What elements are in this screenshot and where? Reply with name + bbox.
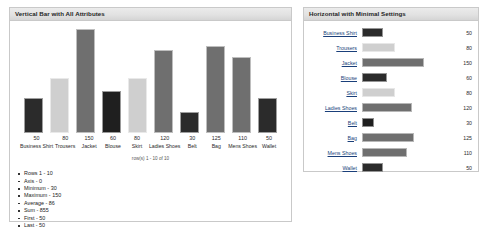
horizontal-bar-track bbox=[362, 25, 452, 40]
statistics-item: First - 50 bbox=[24, 215, 291, 222]
horizontal-bar-row: Bag125 bbox=[304, 130, 478, 145]
row-count-text: row(s) 1 - 10 of 10 bbox=[10, 156, 291, 161]
vertical-bar-slot[interactable] bbox=[124, 21, 150, 133]
horizontal-bar-category-link[interactable]: Belt bbox=[304, 120, 362, 126]
vertical-bar-panel-title: Vertical Bar with All Attributes bbox=[15, 11, 105, 17]
vertical-bar-label-group: 110Mens Shoes bbox=[228, 135, 257, 149]
horizontal-bar-value: 80 bbox=[452, 90, 478, 96]
vertical-bar-axis-labels: 50Business Shirt80Trousers150Jacket60Blo… bbox=[16, 133, 285, 149]
horizontal-bar-value: 110 bbox=[452, 150, 478, 156]
statistics-item: Axis - 0 bbox=[24, 178, 291, 185]
horizontal-bar[interactable] bbox=[362, 163, 383, 172]
horizontal-bar-panel: Horizontal with Minimal Settings Busines… bbox=[303, 7, 479, 172]
vertical-bar-value: 30 bbox=[189, 135, 195, 142]
vertical-bar[interactable] bbox=[102, 91, 121, 133]
vertical-bar-panel: Vertical Bar with All Attributes 50Busin… bbox=[9, 7, 292, 222]
vertical-bar-panel-header: Vertical Bar with All Attributes bbox=[10, 8, 291, 21]
horizontal-bar-row: Skirt80 bbox=[304, 85, 478, 100]
vertical-bar[interactable] bbox=[206, 46, 225, 133]
vertical-bar-category: Jacket bbox=[82, 143, 97, 150]
horizontal-bar-panel-header: Horizontal with Minimal Settings bbox=[304, 8, 478, 21]
horizontal-bar[interactable] bbox=[362, 118, 374, 127]
horizontal-bar[interactable] bbox=[362, 133, 414, 142]
vertical-bar[interactable] bbox=[258, 98, 277, 133]
statistics-item: Last - 50 bbox=[24, 222, 291, 229]
vertical-bar-category: Mens Shoes bbox=[228, 143, 257, 150]
vertical-bar-value: 50 bbox=[266, 135, 272, 142]
vertical-bar-slot[interactable] bbox=[46, 21, 72, 133]
statistics-item: Maximum - 150 bbox=[24, 192, 291, 199]
vertical-bar-label-group: 80Trousers bbox=[53, 135, 77, 149]
vertical-bar-label-group: 120Ladies Shoes bbox=[149, 135, 180, 149]
vertical-bar-category: Blouse bbox=[105, 143, 121, 150]
vertical-bar-category: Trousers bbox=[55, 143, 75, 150]
horizontal-bar-row: Blouse60 bbox=[304, 70, 478, 85]
screenshot-root: Vertical Bar with All Attributes 50Busin… bbox=[0, 0, 485, 242]
horizontal-bar-track bbox=[362, 40, 452, 55]
vertical-bar-slot[interactable] bbox=[229, 21, 255, 133]
horizontal-bar-panel-body: Business Shirt50Trousers80Jacket150Blous… bbox=[304, 21, 478, 178]
vertical-bar-slot[interactable] bbox=[203, 21, 229, 133]
statistics-list: Rows 1 - 10Axis - 0Minimum - 30Maximum -… bbox=[10, 170, 291, 229]
vertical-bar[interactable] bbox=[128, 78, 147, 133]
horizontal-bar-category-link[interactable]: Business Shirt bbox=[304, 30, 362, 36]
horizontal-bar-category-link[interactable]: Blouse bbox=[304, 75, 362, 81]
vertical-bar-slot[interactable] bbox=[20, 21, 46, 133]
vertical-bar-chart bbox=[16, 21, 285, 133]
vertical-bar-category: Skirt bbox=[132, 143, 142, 150]
horizontal-bar-track bbox=[362, 85, 452, 100]
horizontal-bar[interactable] bbox=[362, 58, 424, 67]
statistics-item: Rows 1 - 10 bbox=[24, 170, 291, 177]
statistics-item: Minimum - 30 bbox=[24, 185, 291, 192]
horizontal-bar-value: 80 bbox=[452, 45, 478, 51]
horizontal-bar[interactable] bbox=[362, 73, 387, 82]
vertical-bar-panel-body: 50Business Shirt80Trousers150Jacket60Blo… bbox=[10, 21, 291, 230]
horizontal-bar-track bbox=[362, 130, 452, 145]
horizontal-bar-category-link[interactable]: Ladies Shoes bbox=[304, 105, 362, 111]
vertical-bar[interactable] bbox=[232, 57, 251, 133]
horizontal-bar[interactable] bbox=[362, 103, 412, 112]
horizontal-bar-track bbox=[362, 145, 452, 160]
horizontal-bar-row: Mens Shoes110 bbox=[304, 145, 478, 160]
vertical-bar[interactable] bbox=[24, 98, 43, 133]
horizontal-bar-value: 30 bbox=[452, 120, 478, 126]
vertical-bar-category: Bag bbox=[212, 143, 221, 150]
horizontal-bar-value: 50 bbox=[452, 165, 478, 171]
horizontal-bar[interactable] bbox=[362, 28, 383, 37]
horizontal-bar-value: 60 bbox=[452, 75, 478, 81]
vertical-bar[interactable] bbox=[154, 50, 173, 133]
horizontal-bar-category-link[interactable]: Trousers bbox=[304, 45, 362, 51]
vertical-bar-slot[interactable] bbox=[98, 21, 124, 133]
horizontal-bar-track bbox=[362, 55, 452, 70]
horizontal-bar-category-link[interactable]: Skirt bbox=[304, 90, 362, 96]
horizontal-bar-row: Ladies Shoes120 bbox=[304, 100, 478, 115]
statistics-item: Sum - 855 bbox=[24, 207, 291, 214]
horizontal-bar-track bbox=[362, 115, 452, 130]
vertical-bar[interactable] bbox=[50, 78, 69, 133]
horizontal-bar[interactable] bbox=[362, 43, 395, 52]
horizontal-bar-category-link[interactable]: Wallet bbox=[304, 165, 362, 171]
vertical-bar-slot[interactable] bbox=[150, 21, 176, 133]
horizontal-bar-track bbox=[362, 100, 452, 115]
vertical-bar-slot[interactable] bbox=[72, 21, 98, 133]
vertical-bar-slot[interactable] bbox=[255, 21, 281, 133]
horizontal-bar-category-link[interactable]: Jacket bbox=[304, 60, 362, 66]
vertical-bar-category: Wallet bbox=[262, 143, 276, 150]
vertical-bar-category: Business Shirt bbox=[20, 143, 53, 150]
horizontal-bar-category-link[interactable]: Bag bbox=[304, 135, 362, 141]
horizontal-bar-category-link[interactable]: Mens Shoes bbox=[304, 150, 362, 156]
vertical-bar-label-group: 125Bag bbox=[204, 135, 228, 149]
horizontal-bar-row: Business Shirt50 bbox=[304, 25, 478, 40]
horizontal-bar-row: Trousers80 bbox=[304, 40, 478, 55]
horizontal-bar-value: 120 bbox=[452, 105, 478, 111]
vertical-bar-label-group: 50Wallet bbox=[257, 135, 281, 149]
vertical-bar[interactable] bbox=[180, 112, 199, 133]
vertical-bar-slot[interactable] bbox=[177, 21, 203, 133]
vertical-bar[interactable] bbox=[76, 29, 95, 133]
vertical-bar-value: 150 bbox=[85, 135, 94, 142]
vertical-bar-label-group: 60Blouse bbox=[101, 135, 125, 149]
horizontal-bar-value: 125 bbox=[452, 135, 478, 141]
vertical-bar-category: Ladies Shoes bbox=[149, 143, 180, 150]
horizontal-bar[interactable] bbox=[362, 148, 407, 157]
horizontal-bar[interactable] bbox=[362, 88, 395, 97]
